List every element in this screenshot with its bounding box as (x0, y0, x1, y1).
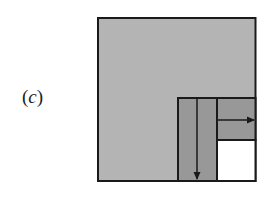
block-diagram (0, 0, 271, 206)
horizontal-strip (217, 98, 256, 140)
empty-corner (217, 140, 256, 181)
